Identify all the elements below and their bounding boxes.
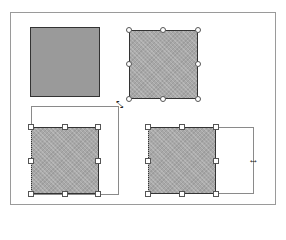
resize-handle-s[interactable] — [160, 96, 166, 102]
resize-handle-nw[interactable] — [28, 124, 34, 130]
resize-handle-se[interactable] — [213, 191, 219, 197]
resize-handle-ne[interactable] — [213, 124, 219, 130]
resize-handle-e[interactable] — [95, 158, 101, 164]
resize-handle-se[interactable] — [95, 191, 101, 197]
diagonal-resize-cursor-icon: ⤡ — [116, 101, 123, 110]
resize-handle-ne[interactable] — [95, 124, 101, 130]
resize-handle-sw[interactable] — [126, 96, 132, 102]
resize-handle-n[interactable] — [179, 124, 185, 130]
resize-handle-w[interactable] — [126, 61, 132, 67]
resize-handle-e[interactable] — [195, 61, 201, 67]
resize-handle-n[interactable] — [160, 27, 166, 33]
resize-handle-se[interactable] — [195, 96, 201, 102]
resize-handle-s[interactable] — [179, 191, 185, 197]
resize-handle-ne[interactable] — [195, 27, 201, 33]
resize-handle-nw[interactable] — [126, 27, 132, 33]
horizontal-resize-cursor-icon: ↔ — [248, 155, 259, 164]
resize-handle-e[interactable] — [213, 158, 219, 164]
resize-handle-w[interactable] — [28, 158, 34, 164]
square-selected[interactable] — [129, 30, 198, 99]
resize-handle-n[interactable] — [62, 124, 68, 130]
resize-handle-sw[interactable] — [145, 191, 151, 197]
resize-handle-s[interactable] — [62, 191, 68, 197]
square-resizing-diagonal[interactable] — [31, 127, 99, 194]
square-resizing-horizontal[interactable] — [148, 127, 216, 194]
resize-handle-sw[interactable] — [28, 191, 34, 197]
square-unselected[interactable] — [30, 27, 100, 97]
resize-handle-nw[interactable] — [145, 124, 151, 130]
resize-handle-w[interactable] — [145, 158, 151, 164]
